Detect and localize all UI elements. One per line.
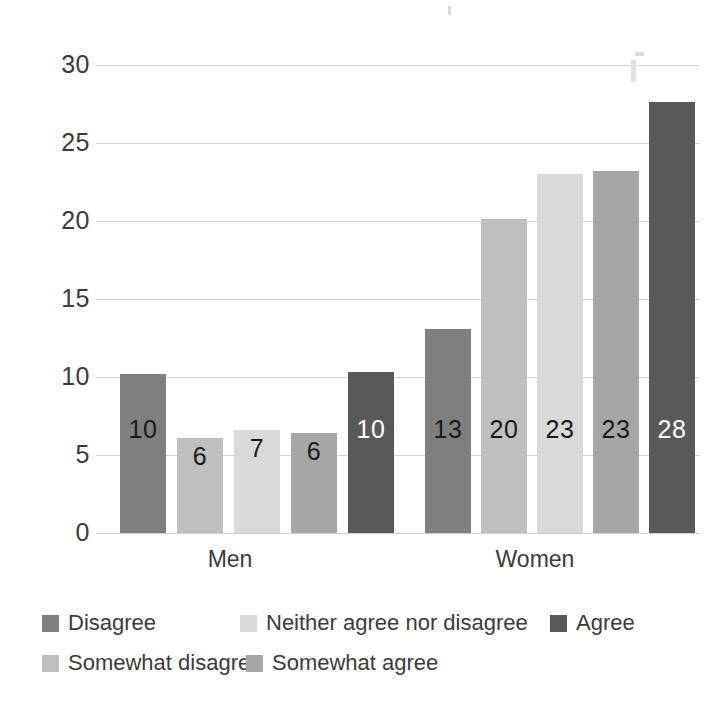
bar-chart: 051015202530 10676101320232328 MenWomen … xyxy=(0,0,722,705)
legend-label: Somewhat disagree xyxy=(68,652,262,674)
bar-value-label: 10 xyxy=(120,417,166,442)
y-axis-tick-label: 15 xyxy=(20,286,90,311)
bar[interactable]: 6 xyxy=(291,433,337,533)
scan-speck-top xyxy=(448,6,451,15)
legend-swatch-icon xyxy=(42,615,59,632)
bar-value-label: 6 xyxy=(177,444,223,469)
legend-label: Disagree xyxy=(68,612,156,634)
y-axis-tick-label: 20 xyxy=(20,208,90,233)
bar[interactable]: 13 xyxy=(425,329,471,533)
bar-value-label: 13 xyxy=(425,417,471,442)
legend-swatch-icon xyxy=(240,615,257,632)
legend-label: Agree xyxy=(576,612,635,634)
bar[interactable]: 28 xyxy=(649,102,695,533)
bar-value-label: 23 xyxy=(537,417,583,442)
bar[interactable]: 10 xyxy=(120,374,166,533)
legend-item[interactable]: Somewhat disagree xyxy=(42,652,262,674)
bar[interactable]: 23 xyxy=(537,174,583,533)
legend-swatch-icon xyxy=(550,615,567,632)
y-axis-tick-label: 25 xyxy=(20,130,90,155)
scan-speck-bar xyxy=(631,60,636,82)
chart-legend: DisagreeNeither agree nor disagreeAgreeS… xyxy=(0,600,722,690)
bar[interactable]: 23 xyxy=(593,171,639,533)
bar-value-label: 6 xyxy=(291,439,337,464)
legend-item[interactable]: Somewhat agree xyxy=(246,652,438,674)
legend-item[interactable]: Agree xyxy=(550,612,635,634)
y-axis: 051015202530 xyxy=(0,0,90,533)
bar[interactable]: 6 xyxy=(177,438,223,533)
legend-swatch-icon xyxy=(246,655,263,672)
legend-label: Neither agree nor disagree xyxy=(266,612,528,634)
y-axis-tick-label: 5 xyxy=(20,442,90,467)
x-axis-label-women: Women xyxy=(445,548,625,571)
legend-swatch-icon xyxy=(42,655,59,672)
bar-value-label: 23 xyxy=(593,417,639,442)
legend-item[interactable]: Neither agree nor disagree xyxy=(240,612,528,634)
gridline xyxy=(96,533,700,534)
bar[interactable]: 20 xyxy=(481,219,527,533)
bar-value-label: 10 xyxy=(348,417,394,442)
y-axis-tick-label: 10 xyxy=(20,364,90,389)
y-axis-tick-label: 30 xyxy=(20,52,90,77)
plot-area: 10676101320232328 xyxy=(96,65,700,533)
legend-label: Somewhat agree xyxy=(272,652,438,674)
y-axis-tick-label: 0 xyxy=(20,520,90,545)
bar[interactable]: 7 xyxy=(234,430,280,533)
gridline xyxy=(96,143,700,144)
bar-value-label: 7 xyxy=(234,436,280,461)
x-axis-label-men: Men xyxy=(140,548,320,571)
bar-value-label: 20 xyxy=(481,417,527,442)
bar[interactable]: 10 xyxy=(348,372,394,533)
scan-speck-upper xyxy=(635,52,644,56)
gridline xyxy=(96,65,700,66)
legend-item[interactable]: Disagree xyxy=(42,612,156,634)
bar-value-label: 28 xyxy=(649,417,695,442)
